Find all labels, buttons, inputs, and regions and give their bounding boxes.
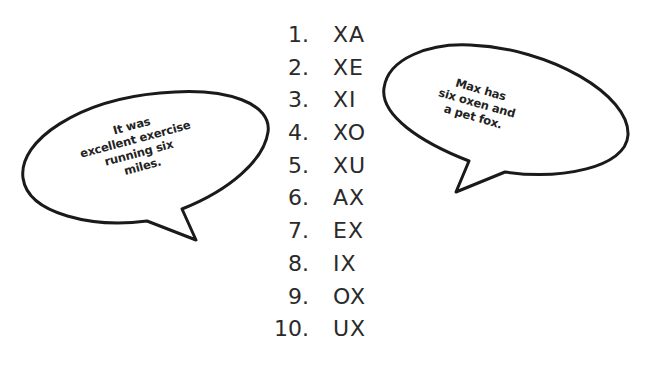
list-word: OX	[333, 281, 366, 314]
list-number: 4.	[262, 117, 309, 150]
list-number: 8.	[262, 248, 309, 281]
list-number: 6.	[262, 182, 309, 215]
list-word: XU	[333, 150, 366, 183]
list-word: EX	[333, 215, 364, 248]
list-number: 9.	[262, 281, 309, 314]
list-word: AX	[333, 182, 365, 215]
list-word: XO	[333, 117, 366, 150]
list-number: 1.	[262, 19, 309, 52]
list-word: XE	[333, 52, 364, 85]
list-number: 3.	[262, 84, 309, 117]
list-number: 2.	[262, 52, 309, 85]
list-word: XA	[333, 19, 365, 52]
list-number: 7.	[262, 215, 309, 248]
list-word: XI	[333, 84, 357, 117]
list-word: UX	[333, 313, 366, 346]
list-word: IX	[333, 248, 357, 281]
list-number: 5.	[262, 150, 309, 183]
list-number: 10.	[262, 313, 309, 346]
